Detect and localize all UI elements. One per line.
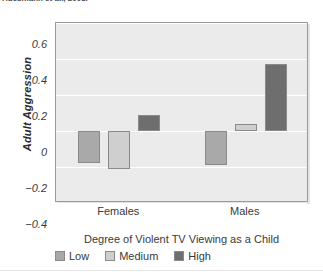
y-axis-tick-label: −0.4: [25, 218, 47, 230]
bar-chart-figure: Adult Aggression 0.60.40.20−0.2−0.4 Fema…: [0, 0, 323, 272]
legend-swatch-icon: [105, 251, 115, 261]
bar-males-medium: [235, 124, 257, 131]
bar-females-medium: [108, 131, 130, 169]
legend-label: Low: [69, 250, 89, 262]
legend-swatch-icon: [55, 251, 65, 261]
group-label-males: Males: [230, 205, 259, 217]
y-axis-tick-labels: 0.60.40.20−0.2−0.4: [0, 22, 51, 202]
gridline: [56, 203, 307, 204]
y-axis-tick-label: 0.2: [32, 110, 47, 122]
x-axis-title: Degree of Violent TV Viewing as a Child: [55, 233, 308, 245]
x-axis-group-labels: FemalesMales: [55, 205, 308, 221]
chart-legend: LowMediumHigh: [55, 250, 308, 262]
legend-label: High: [188, 250, 211, 262]
bar-females-high: [138, 115, 160, 131]
y-axis-tick-label: 0: [41, 146, 47, 158]
legend-item-high[interactable]: High: [174, 250, 211, 262]
plot-area: [55, 22, 308, 202]
group-label-females: Females: [97, 205, 139, 217]
y-axis-tick-label: −0.2: [25, 182, 47, 194]
y-axis-tick-label: 0.6: [32, 38, 47, 50]
bar-series-container: [56, 23, 307, 201]
bar-males-low: [205, 131, 227, 165]
legend-item-medium[interactable]: Medium: [105, 250, 158, 262]
legend-swatch-icon: [174, 251, 184, 261]
y-axis-tick-label: 0.4: [32, 74, 47, 86]
bottom-divider: [0, 270, 323, 271]
legend-label: Medium: [119, 250, 158, 262]
bar-males-high: [265, 64, 287, 131]
bar-females-low: [78, 131, 100, 163]
legend-item-low[interactable]: Low: [55, 250, 89, 262]
